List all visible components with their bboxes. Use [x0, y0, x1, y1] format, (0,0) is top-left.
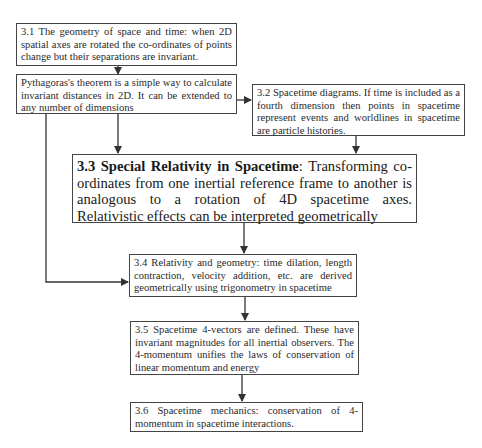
box-3-4-relativity-and-geometry: 3.4 Relativity and geometry: time dilati… [129, 254, 357, 297]
box-3-1-text: 3.1 The geometry of space and time: when… [21, 26, 232, 62]
box-3-5-text: 3.5 Spacetime 4-vectors are defined. The… [135, 324, 354, 373]
box-pythagoras-theorem: Pythagoras's theorem is a simple way to … [16, 74, 237, 114]
box-3-2-text: 3.2 Spacetime diagrams. If time is inclu… [257, 87, 460, 136]
box-3-4-text: 3.4 Relativity and geometry: time dilati… [134, 257, 352, 293]
box-pythagoras-text: Pythagoras's theorem is a simple way to … [21, 77, 232, 113]
box-3-2-spacetime-diagrams: 3.2 Spacetime diagrams. If time is inclu… [252, 84, 465, 136]
box-3-1-geometry-of-space-and-time: 3.1 The geometry of space and time: when… [16, 23, 237, 66]
box-3-6-text: 3.6 Spacetime mechanics: conservation of… [135, 405, 358, 429]
box-3-5-spacetime-4-vectors: 3.5 Spacetime 4-vectors are defined. The… [130, 321, 359, 375]
box-3-3-special-relativity-in-spacetime: 3.3 Special Relativity in Spacetime: Tra… [72, 154, 417, 223]
box-3-3-title: 3.3 Special Relativity in Spacetime [77, 158, 299, 174]
box-3-6-spacetime-mechanics: 3.6 Spacetime mechanics: conservation of… [130, 402, 363, 432]
